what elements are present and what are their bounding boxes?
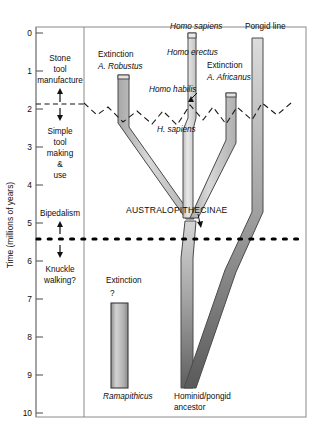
ytick-4: 4 <box>27 180 32 190</box>
stone-tool-line2: tool <box>53 65 66 74</box>
ytick-7: 7 <box>27 294 32 304</box>
label-a-africanus: A. Africanus <box>206 73 251 82</box>
ytick-3: 3 <box>27 142 32 152</box>
label-rama-question: ? <box>110 289 115 298</box>
ytick-9: 9 <box>27 370 32 380</box>
label-hominid-pongid-1: Hominid/pongid <box>174 392 231 401</box>
simple-tool-line5: use <box>53 171 67 180</box>
label-ramapithicus: Ramapithicus <box>103 392 153 401</box>
y-axis-title: Time (millions of years) <box>5 182 15 268</box>
evolution-diagram: 0 1 2 3 4 5 6 7 8 9 10 Time (millions of… <box>0 0 318 443</box>
ytick-5: 5 <box>27 218 32 228</box>
label-extinction-robustus: Extinction <box>98 50 134 59</box>
label-australopithecinae: AUSTRALOPITHECINAE <box>126 205 228 215</box>
bar-a-africanus-extinction-cap <box>226 93 236 97</box>
simple-tool-line2: tool <box>53 138 66 147</box>
ytick-0: 0 <box>27 28 32 38</box>
simple-tool-line3: making <box>47 149 74 158</box>
ytick-1: 1 <box>27 66 32 76</box>
bar-ramapithicus <box>111 303 128 388</box>
label-pongid-line: Pongid line <box>245 22 286 31</box>
label-hominid-pongid-2: ancestor <box>174 403 206 412</box>
label-h-sapiens: H. sapiens <box>157 125 196 134</box>
label-extinction-africanus: Extinction <box>207 61 243 70</box>
bar-a-robustus-extinction-cap <box>118 75 129 79</box>
stone-tool-line3: manufacture <box>37 76 83 85</box>
ytick-6: 6 <box>27 256 32 266</box>
simple-tool-line1: Simple <box>47 127 72 136</box>
bar-homo-sapiens-cap <box>188 33 196 38</box>
knuckle-line2: walking? <box>43 276 76 285</box>
simple-tool-line4: & <box>57 160 63 169</box>
ytick-10: 10 <box>23 408 33 418</box>
label-homo-habilis: Homo habilis <box>149 85 196 94</box>
label-a-robustus: A. Robustus <box>97 62 143 71</box>
stone-tool-line1: Stone <box>49 54 71 63</box>
label-homo-sapiens: Homo sapiens <box>170 22 222 31</box>
ytick-2: 2 <box>27 104 32 114</box>
label-extinction-rama: Extinction <box>106 276 142 285</box>
label-homo-erectus: Homo erectus <box>167 48 218 57</box>
knuckle-line1: Knuckle <box>45 265 75 274</box>
ytick-8: 8 <box>27 332 32 342</box>
bipedalism-label: Bipedalism <box>40 209 80 218</box>
